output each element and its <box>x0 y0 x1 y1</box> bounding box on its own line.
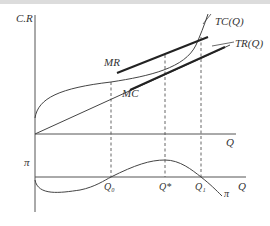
y-axis-label-cr: C.R <box>16 12 33 24</box>
q1-label: Q₁ <box>195 181 206 192</box>
lower-q-label: Q <box>238 180 246 192</box>
mr-tangent <box>117 37 208 73</box>
pi-curve-label: π <box>224 188 230 199</box>
tr-label: TR(Q) <box>235 37 263 50</box>
mc-tangent <box>130 47 225 90</box>
mc-label: MC <box>121 87 139 99</box>
economics-diagram: C.R TC(Q) TR(Q) MR MC Q π Q₀ Q* Q₁ π Q <box>0 0 270 226</box>
tc-label: TC(Q) <box>215 15 244 28</box>
upper-q-label: Q <box>226 136 234 148</box>
qstar-label: Q* <box>159 181 171 192</box>
diagram-frame: C.R TC(Q) TR(Q) MR MC Q π Q₀ Q* Q₁ π Q <box>0 0 270 226</box>
profit-curve <box>35 160 222 196</box>
q0-label: Q₀ <box>104 181 115 192</box>
tr-leader <box>212 42 234 46</box>
pi-axis-label: π <box>24 156 30 168</box>
mr-label: MR <box>103 56 120 68</box>
